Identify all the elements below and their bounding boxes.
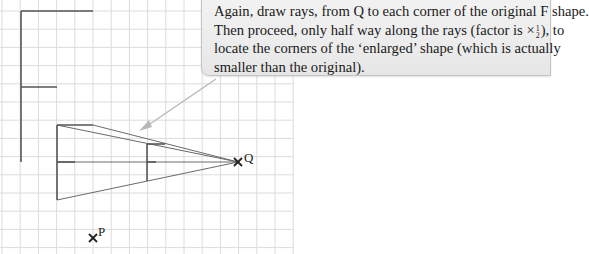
fraction-denominator: 2 [536,32,540,39]
callout-line-1: Again, draw rays, from Q to each corner … [214,2,550,21]
callout-pointer-arrow [139,79,216,131]
one-half-fraction: 12 [536,25,540,39]
callout-line-3: locate the corners of the ‘enlarged’ sha… [214,39,550,58]
callout-line-4: smaller than the original). [214,58,550,77]
callout-line-2: Then proceed, only half way along the ra… [214,21,550,40]
callout-line-2-start: Then proceed, only half way along the ra… [214,22,535,38]
instruction-callout: Again, draw rays, from Q to each corner … [201,0,551,76]
callout-line-2-end: ), to [541,22,565,38]
point-p-label: P [98,224,105,240]
point-q-label: Q [244,150,253,166]
